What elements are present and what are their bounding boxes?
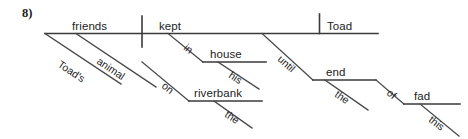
word-prep-on: on: [160, 79, 177, 96]
word-prep-object-house: house: [210, 48, 242, 60]
word-prep-object-riverbank: riverbank: [194, 87, 242, 99]
word-object: Toad: [327, 20, 352, 32]
exercise-number-label: 8): [22, 6, 32, 20]
word-prep-object-mod-this: this: [427, 113, 447, 133]
modifier-line-animal: [76, 34, 156, 88]
word-prep-object-fad: fad: [414, 90, 430, 102]
word-verb: kept: [159, 20, 182, 32]
word-prep-until: until: [276, 53, 298, 75]
word-prep-object-mod-the-end: the: [333, 88, 352, 106]
sentence-diagram-canvas: friends kept Toad animal Toad's in house…: [0, 0, 468, 139]
word-prep-object-end: end: [326, 66, 346, 78]
word-prep-object-mod-the-riverbank: the: [223, 108, 242, 126]
word-subject: friends: [72, 20, 107, 32]
word-subject-mod-toads: Toad's: [56, 58, 88, 85]
word-prep-object-mod-his: his: [227, 69, 245, 86]
sentence-diagram-container: friends kept Toad animal Toad's in house…: [0, 0, 468, 139]
